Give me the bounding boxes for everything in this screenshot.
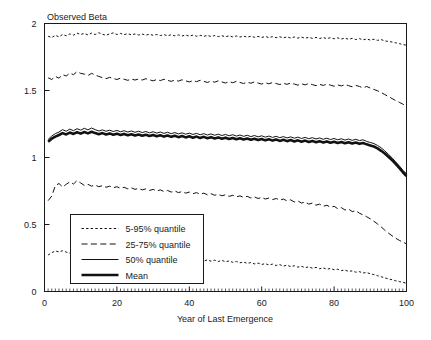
legend-label: 25-75% quantile (126, 240, 191, 250)
series-line-50-quantile (48, 128, 406, 174)
series-line-mean (48, 132, 406, 176)
legend-label: 50% quantile (126, 255, 178, 265)
y-tick-label: 2 (31, 19, 36, 29)
chart-figure: 02040608010000.511.52 Observed Beta Year… (0, 0, 431, 340)
x-tick-label: 60 (257, 298, 267, 308)
x-tick-label: 80 (329, 298, 339, 308)
x-tick-label: 100 (399, 298, 414, 308)
chart-legend: 5-95% quantile25-75% quantile50% quantil… (71, 215, 204, 284)
observed-beta-line-chart: 02040608010000.511.52 Observed Beta Year… (0, 0, 431, 340)
x-tick-label: 0 (42, 298, 47, 308)
x-tick-label: 40 (184, 298, 194, 308)
x-axis-label: Year of Last Emergence (177, 314, 273, 324)
y-tick-label: 0 (31, 287, 36, 297)
x-tick-label: 20 (112, 298, 122, 308)
y-axis-label: Observed Beta (47, 12, 107, 22)
y-tick-label: 1 (31, 153, 36, 163)
y-tick-label: 1.5 (24, 86, 37, 96)
legend-label: 5-95% quantile (126, 224, 186, 234)
y-tick-label: 0.5 (24, 220, 37, 230)
legend-label: Mean (126, 271, 149, 281)
series-line-75-quantile (48, 72, 406, 106)
series-line-95-quantile (48, 33, 406, 45)
